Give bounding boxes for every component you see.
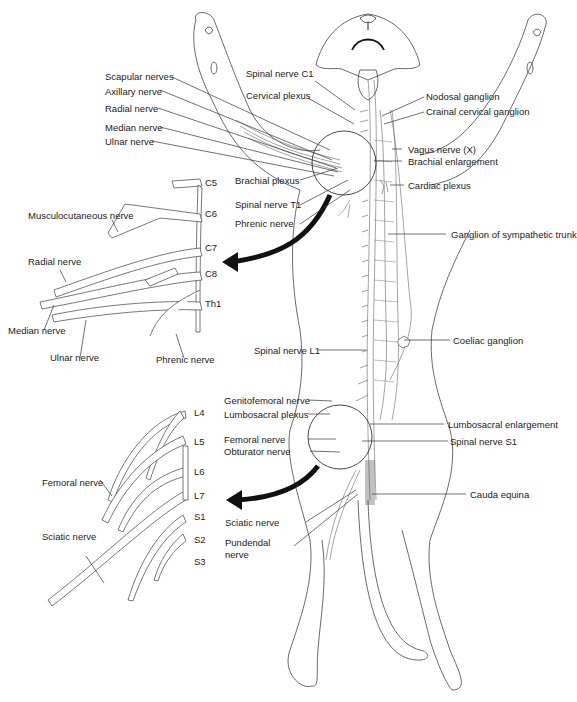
- label-cauda-equina: Cauda equina: [470, 489, 529, 500]
- label-pundendal-nerve-line1: Pundendal: [225, 537, 270, 548]
- segment-l7: L7: [194, 490, 205, 501]
- arrow-lumbosacral-head: [226, 490, 242, 510]
- label-inset-femoral-nerve: Femoral nerve: [42, 477, 103, 488]
- segment-l5: L5: [194, 436, 205, 447]
- lumbosacral-plexus-inset: [48, 411, 188, 606]
- label-axillary-nerve: Axillary nerve: [105, 86, 162, 97]
- segment-c5: C5: [205, 177, 217, 188]
- label-coeliac-ganglion: Coeliac ganglion: [453, 335, 523, 346]
- label-ganglion-sympathetic-trunk: Ganglion of sympathetic trunk: [451, 229, 577, 240]
- segment-s2: S2: [194, 534, 206, 545]
- label-ulnar-nerve: Ulnar nerve: [105, 136, 154, 147]
- label-cardiac-plexus: Cardiac plexus: [408, 180, 471, 191]
- label-inset-ulnar-nerve: Ulnar nerve: [50, 352, 99, 363]
- label-lumbosacral-plexus: Lumbosacral plexus: [224, 409, 309, 420]
- lumbosacral-magnifier-circle: [308, 405, 372, 469]
- label-inset-sciatic-nerve: Sciatic nerve: [42, 531, 96, 542]
- label-sciatic-nerve: Sciatic nerve: [225, 517, 279, 528]
- segment-c8: C8: [205, 268, 217, 279]
- label-cervical-plexus: Cervical plexus: [246, 90, 310, 101]
- label-spinal-nerve-c1: Spinal nerve C1: [246, 68, 314, 79]
- label-spinal-nerve-s1: Spinal nerve S1: [450, 436, 517, 447]
- label-obturator-nerve: Obturator nerve: [224, 446, 291, 457]
- label-inset-radial-nerve: Radial nerve: [28, 256, 81, 267]
- label-pundendal-nerve-line2: nerve: [225, 549, 249, 560]
- arrow-brachial-head: [222, 252, 238, 272]
- label-spinal-nerve-l1: Spinal nerve L1: [254, 345, 320, 356]
- segment-c6: C6: [205, 208, 217, 219]
- segment-l6: L6: [194, 466, 205, 477]
- label-phrenic-nerve: Phrenic nerve: [235, 218, 294, 229]
- segment-th1: Th1: [205, 298, 221, 309]
- segment-c7: C7: [205, 242, 217, 253]
- label-radial-nerve: Radial nerve: [105, 103, 158, 114]
- label-crainal-cervical-ganglion: Crainal cervical ganglion: [426, 106, 530, 117]
- leader-lines: [44, 77, 466, 583]
- segment-l4: L4: [194, 407, 205, 418]
- segment-s3: S3: [194, 556, 206, 567]
- label-brachial-enlargement: Brachial enlargement: [408, 156, 498, 167]
- label-nodosal-ganglion: Nodosal ganglion: [426, 91, 499, 102]
- label-median-nerve: Median nerve: [105, 122, 163, 133]
- label-brachial-plexus: Brachial plexus: [235, 175, 299, 186]
- label-scapular-nerves: Scapular nerves: [105, 71, 174, 82]
- label-inset-median-nerve: Median nerve: [8, 325, 66, 336]
- label-lumbosacral-enlargement: Lumbosacral enlargement: [448, 419, 558, 430]
- label-spinal-nerve-t1: Spinal nerve T1: [235, 199, 301, 210]
- arrow-lumbosacral: [238, 466, 318, 500]
- label-femoral-nerve: Femoral nerve: [224, 434, 285, 445]
- label-genitofemoral-nerve: Genitofemoral nerve: [224, 395, 310, 406]
- label-vagus-nerve: Vagus nerve (X): [408, 144, 476, 155]
- segment-s1: S1: [194, 511, 206, 522]
- label-inset-phrenic-nerve: Phrenic nerve: [156, 354, 215, 365]
- label-musculocutaneous-nerve: Musculocutaneous nerve: [28, 210, 134, 221]
